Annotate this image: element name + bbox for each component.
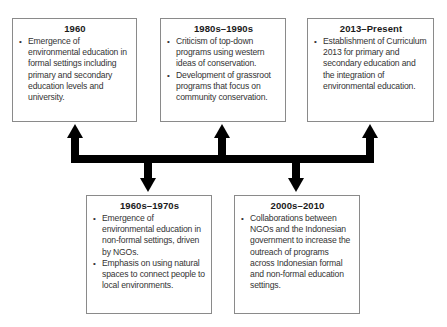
period-title: 1960 [19, 23, 131, 34]
bullet-item: Emphasis on using natural spaces to conn… [93, 258, 206, 292]
down-arrow-icon [288, 160, 304, 192]
bullet-item: Emergence of environmental education in … [19, 36, 131, 103]
period-title: 1960s–1970s [93, 200, 206, 211]
timeline-box-1980s-1990s: 1980s–1990s Criticism of top-down progra… [160, 18, 286, 122]
timeline-box-2013-present: 2013–Present Establishment of Curriculum… [307, 18, 434, 122]
timeline-box-2000s-2010: 2000s–2010 Collaborations between NGOs a… [234, 195, 360, 314]
bullet-item: Criticism of top-down programs using wes… [167, 36, 280, 70]
bullet-item: Emergence of environmental education in … [93, 213, 206, 258]
timeline-box-1960s-1970s: 1960s–1970s Emergence of environmental e… [86, 195, 212, 314]
period-title: 2000s–2010 [241, 200, 354, 211]
bullet-list: Emergence of environmental education in … [93, 213, 206, 291]
period-title: 2013–Present [314, 23, 428, 34]
bullet-item: Development of grassroot programs that f… [167, 70, 280, 104]
bullet-list: Emergence of environmental education in … [19, 36, 131, 103]
bullet-item: Establishment of Curriculum 2013 for pri… [314, 36, 428, 92]
period-title: 1980s–1990s [167, 23, 280, 34]
bullet-item: Collaborations between NGOs and the Indo… [241, 213, 354, 291]
bullet-list: Establishment of Curriculum 2013 for pri… [314, 36, 428, 92]
bullet-list: Collaborations between NGOs and the Indo… [241, 213, 354, 291]
timeline-box-1960: 1960 Emergence of environmental educatio… [12, 18, 137, 122]
bullet-list: Criticism of top-down programs using wes… [167, 36, 280, 103]
down-arrow-icon [140, 160, 156, 192]
